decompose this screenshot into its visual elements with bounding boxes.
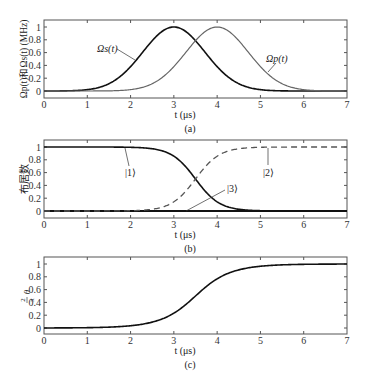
svg-text:0.2: 0.2	[29, 73, 42, 84]
y-ticks-c: 00.20.40.60.81	[29, 259, 348, 334]
caption-b: (b)	[184, 243, 196, 255]
line-theta	[44, 264, 347, 328]
svg-text:7: 7	[345, 335, 350, 346]
label-state-1: |1⟩	[125, 167, 136, 178]
svg-text:0.6: 0.6	[29, 167, 42, 178]
svg-text:π: π	[28, 298, 36, 302]
svg-text:2: 2	[128, 99, 133, 110]
line-omega-s	[44, 27, 347, 91]
svg-text:0.8: 0.8	[29, 154, 42, 165]
svg-text:0: 0	[42, 335, 47, 346]
svg-text:7: 7	[345, 219, 350, 230]
svg-text:0.8: 0.8	[29, 34, 42, 45]
svg-text:4: 4	[215, 99, 220, 110]
label-state-3: |3⟩	[227, 183, 238, 194]
x-axis-label-c: t (μs)	[174, 345, 195, 357]
svg-text:4: 4	[215, 219, 220, 230]
y-axis-label-a: Ωp(t)和Ωs(t) (MHz)	[19, 20, 30, 99]
svg-text:0: 0	[42, 99, 47, 110]
svg-text:6: 6	[301, 99, 306, 110]
svg-text:1: 1	[85, 99, 90, 110]
svg-text:5: 5	[258, 335, 263, 346]
label-omega-p: Ωp(t)	[266, 53, 288, 65]
svg-text:0.2: 0.2	[29, 193, 42, 204]
x-ticks-b: 01234567	[42, 140, 350, 230]
y-ticks-b: 00.20.40.60.81	[29, 142, 348, 217]
x-axis-label-a: t (μs)	[174, 109, 195, 121]
svg-text:0: 0	[36, 323, 41, 334]
figure: 01234567 00.20.40.60.81 Ωs(t) Ωp(t) t (μ…	[0, 0, 365, 385]
y-axis-label-b: 布居数	[18, 164, 30, 194]
svg-text:0.6: 0.6	[29, 47, 42, 58]
svg-text:6: 6	[301, 219, 306, 230]
label-state-2: |2⟩	[263, 167, 274, 178]
line-omega-p	[44, 27, 347, 91]
svg-text:1: 1	[85, 335, 90, 346]
x-ticks-c: 01234567	[42, 257, 350, 346]
svg-text:2: 2	[128, 335, 133, 346]
svg-text:5: 5	[258, 99, 263, 110]
svg-text:0.4: 0.4	[29, 60, 42, 71]
panel-c: 01234567 00.20.40.60.81 t (μs) (c) 2 π θ	[19, 257, 350, 371]
svg-text:1: 1	[36, 22, 41, 33]
label-omega-s: Ωs(t)	[97, 43, 118, 55]
svg-text:0.2: 0.2	[29, 310, 42, 321]
svg-text:7: 7	[345, 99, 350, 110]
svg-text:2: 2	[128, 219, 133, 230]
svg-text:1: 1	[36, 142, 41, 153]
plot-frame-a	[44, 20, 347, 98]
line-state-2	[44, 147, 347, 211]
leader-state-3	[186, 190, 225, 211]
x-axis-label-b: t (μs)	[174, 229, 195, 241]
svg-text:1: 1	[36, 259, 41, 270]
svg-text:1: 1	[85, 219, 90, 230]
svg-text:5: 5	[258, 219, 263, 230]
svg-text:θ: θ	[22, 289, 32, 294]
svg-text:0.8: 0.8	[29, 271, 42, 282]
svg-text:0.4: 0.4	[29, 180, 42, 191]
caption-a: (a)	[184, 123, 195, 135]
x-ticks-a: 01234567	[42, 20, 350, 110]
svg-text:4: 4	[215, 335, 220, 346]
leader-omega-p	[268, 63, 276, 72]
svg-text:6: 6	[301, 335, 306, 346]
leader-omega-s	[117, 49, 135, 60]
leader-state-1	[125, 148, 129, 166]
svg-text:0: 0	[36, 206, 41, 217]
caption-c: (c)	[184, 359, 195, 371]
panel-b: 01234567 00.20.40.60.81 |1⟩ |2⟩ |3⟩ t (μ…	[18, 140, 350, 255]
svg-text:0: 0	[42, 219, 47, 230]
svg-text:0: 0	[36, 86, 41, 97]
panel-a: 01234567 00.20.40.60.81 Ωs(t) Ωp(t) t (μ…	[19, 20, 350, 135]
svg-text:2: 2	[19, 298, 27, 302]
